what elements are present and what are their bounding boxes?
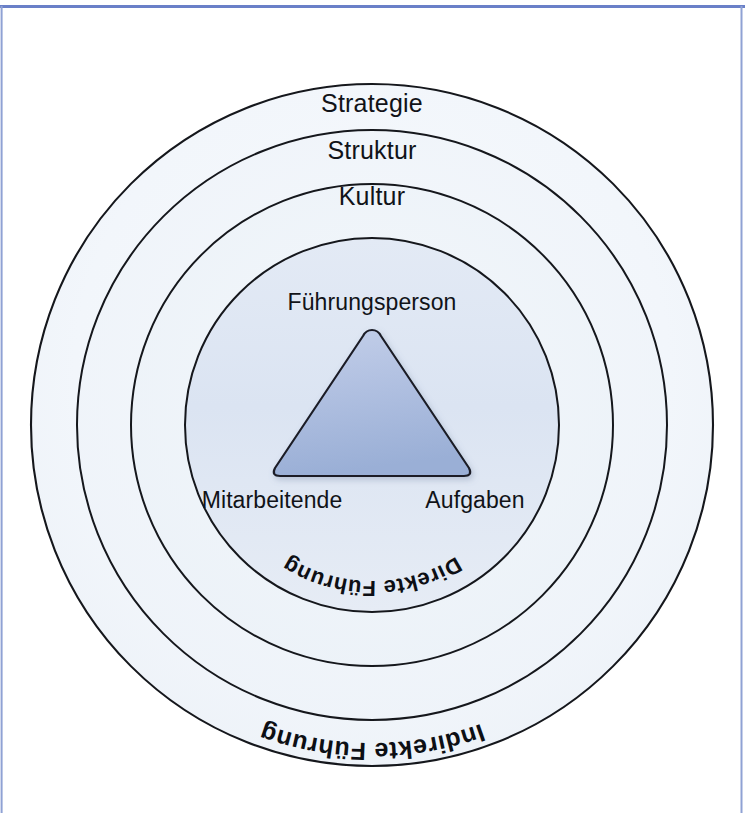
ring-label-struktur: Struktur: [327, 136, 416, 164]
diagram-root: Indirekte Führung Strategie Struktur Kul…: [0, 0, 745, 813]
leadership-circles-diagram: Indirekte Führung Strategie Struktur Kul…: [0, 0, 745, 813]
node-label-mitarbeitende: Mitarbeitende: [202, 487, 343, 513]
node-label-fuehrungsperson: Führungsperson: [288, 289, 457, 315]
ring-label-kultur: Kultur: [339, 182, 406, 210]
node-label-aufgaben: Aufgaben: [425, 487, 524, 513]
ring-label-strategie: Strategie: [321, 89, 423, 117]
